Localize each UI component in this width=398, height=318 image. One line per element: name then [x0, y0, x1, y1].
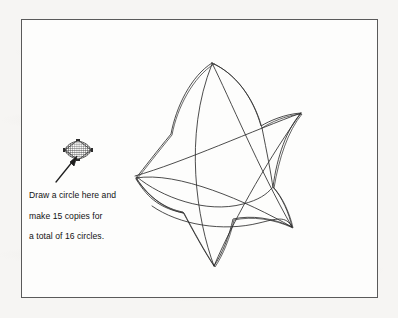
chord-bottom-to-top [195, 64, 214, 266]
callout-line-1: Draw a circle here and [29, 190, 149, 200]
callout-line-3: a total of 16 circles. [29, 231, 149, 241]
circle-cluster-nub-top [76, 139, 80, 141]
chord-top-to-bottom-right [212, 63, 292, 227]
circle-envelope-star-curve [135, 63, 302, 267]
circle-cluster-icon [63, 139, 93, 161]
circle-cluster-nub-right [91, 148, 93, 152]
circle-cluster-body [65, 141, 91, 159]
scanned-figure-page: Draw a circle here and make 15 copies fo… [0, 0, 398, 318]
circle-cluster-nub-bottom [76, 159, 80, 161]
figure-drawing-canvas [22, 20, 379, 299]
circle-cluster-nub-left [63, 148, 65, 152]
figure-border [21, 19, 378, 298]
pointer-arrow [56, 156, 77, 182]
instruction-callout: Draw a circle here and make 15 copies fo… [29, 180, 149, 252]
arrow-shaft [56, 161, 73, 182]
envelope-outer-path [136, 63, 301, 266]
callout-line-2: make 15 copies for [29, 211, 149, 221]
envelope-outer-path-offset [137, 64, 302, 267]
